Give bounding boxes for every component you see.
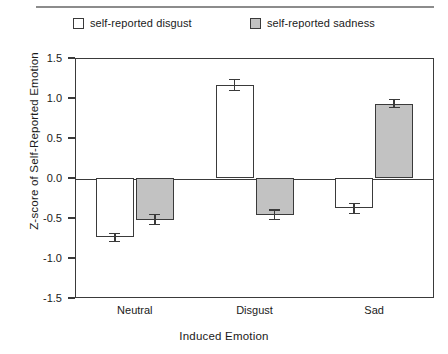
x-tick-label: Sad bbox=[314, 303, 434, 317]
error-bar-cap bbox=[349, 213, 360, 214]
y-tick-label: -1.5 bbox=[0, 291, 62, 305]
legend-label: self-reported disgust bbox=[90, 17, 192, 29]
y-tick-mark bbox=[68, 57, 75, 58]
error-bar-line bbox=[234, 80, 235, 91]
error-bar-cap bbox=[149, 214, 160, 215]
error-bar-cap bbox=[389, 107, 400, 108]
y-tick-mark bbox=[68, 257, 75, 258]
y-tick-mark bbox=[68, 217, 75, 218]
error-bar-cap bbox=[109, 233, 120, 234]
y-axis-title: Z-score of Self-Reported Emotion bbox=[28, 11, 40, 271]
chart-legend: self-reported disgust self-reported sadn… bbox=[0, 16, 448, 34]
y-tick-mark bbox=[68, 97, 75, 98]
error-bar-cap bbox=[389, 99, 400, 100]
legend-swatch-white-icon bbox=[73, 18, 84, 29]
y-tick-mark bbox=[68, 137, 75, 138]
bar-neutral-disgust bbox=[96, 178, 134, 237]
top-divider-rule bbox=[36, 6, 434, 8]
legend-label: self-reported sadness bbox=[267, 17, 375, 29]
error-bar-cap bbox=[269, 219, 280, 220]
y-tick-mark bbox=[68, 177, 75, 178]
legend-item-self-reported-sadness: self-reported sadness bbox=[250, 17, 375, 29]
error-bar-cap bbox=[349, 203, 360, 204]
error-bar-cap bbox=[229, 79, 240, 80]
legend-item-self-reported-disgust: self-reported disgust bbox=[73, 17, 192, 29]
legend-swatch-gray-icon bbox=[250, 18, 261, 29]
bar-disgust-disgust bbox=[216, 85, 254, 178]
bar-sad-sadness bbox=[375, 104, 413, 178]
error-bar-cap bbox=[269, 209, 280, 210]
error-bar-cap bbox=[229, 90, 240, 91]
y-tick-mark bbox=[68, 297, 75, 298]
chart-figure: self-reported disgust self-reported sadn… bbox=[0, 0, 448, 354]
x-axis-title: Induced Emotion bbox=[0, 330, 448, 342]
x-tick-label: Neutral bbox=[75, 303, 195, 317]
x-tick-label: Disgust bbox=[195, 303, 315, 317]
error-bar-cap bbox=[109, 241, 120, 242]
error-bar-cap bbox=[149, 224, 160, 225]
